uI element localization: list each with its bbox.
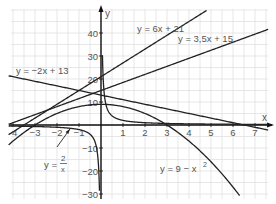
x-tick-label: −2 [52,127,63,138]
label-parabola: y = 9 − x [160,163,197,174]
x-tick-label: 4 [186,127,191,138]
chart-svg: -4−3−2−1123456740302010−10−20−30 x y y =… [0,0,276,204]
x-tick-label: −3 [30,127,41,138]
y-axis-arrow-icon [99,5,104,12]
label-neg2x-13: y = −2x + 13 [16,65,69,76]
label-recip-den: x [61,165,65,174]
y-tick-label: 40 [87,28,98,39]
y-tick-label: 30 [87,51,98,62]
parabola-9-minus-x2 [9,104,240,195]
y-tick-label: −20 [82,166,98,177]
x-tick-label: 3 [164,127,169,138]
y-tick-label: −30 [82,189,98,200]
label-3-5x-15: y = 3,5x + 15 [178,33,233,44]
y-tick-label: 10 [87,97,98,108]
label-6x-21: y = 6x + 21 [137,23,184,34]
x-tick-label: 6 [230,127,235,138]
y-axis-label: y [105,8,110,19]
label-recip-num: 2 [61,154,66,163]
x-tick-label: 5 [208,127,213,138]
label-parabola-exp: 2 [203,161,207,168]
label-recip-y: y = [44,159,57,170]
function-graph-chart: -4−3−2−1123456740302010−10−20−30 x y y =… [0,0,276,204]
x-axis-label: x [262,112,267,123]
x-tick-label: 7 [252,127,257,138]
x-tick-label: 2 [142,127,147,138]
x-tick-label: 1 [120,127,125,138]
